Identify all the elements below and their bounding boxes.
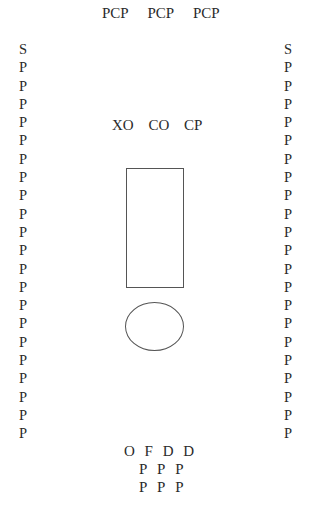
column-label: P (16, 369, 30, 387)
column-label: P (16, 168, 30, 186)
bottom-row-2: P P P (139, 461, 188, 478)
top-label-row: PCP PCP PCP (102, 5, 229, 22)
rectangle-shape (126, 168, 184, 288)
column-label: P (16, 406, 30, 424)
column-label: P (281, 95, 295, 113)
column-label: P (16, 296, 30, 314)
bottom-row-1: O F D D (124, 443, 198, 460)
ellipse-shape (125, 302, 184, 351)
column-label: P (16, 278, 30, 296)
bottom-label: P (157, 461, 167, 477)
column-label: S (281, 40, 295, 58)
column-label: P (281, 333, 295, 351)
column-label: P (281, 168, 295, 186)
bottom-label: D (163, 443, 176, 459)
column-label: P (16, 424, 30, 442)
column-label: P (281, 205, 295, 223)
column-label: P (281, 58, 295, 76)
bottom-label: P (139, 479, 149, 495)
column-label: P (16, 223, 30, 241)
column-label: P (16, 186, 30, 204)
column-label: S (16, 40, 30, 58)
column-label: P (281, 388, 295, 406)
column-label: P (281, 131, 295, 149)
top-label: PCP (193, 5, 220, 21)
top-label: PCP (147, 5, 174, 21)
bottom-label: D (183, 443, 196, 459)
column-label: P (16, 58, 30, 76)
right-column: SPPPPPPPPPPPPPPPPPPPPP (281, 40, 295, 443)
column-label: P (281, 314, 295, 332)
column-label: P (16, 333, 30, 351)
column-label: P (281, 223, 295, 241)
middle-label: XO (112, 117, 134, 133)
column-label: P (16, 77, 30, 95)
column-label: P (281, 186, 295, 204)
bottom-label: P (157, 479, 167, 495)
top-label: PCP (102, 5, 129, 21)
bottom-label: P (175, 461, 185, 477)
column-label: P (16, 95, 30, 113)
column-label: P (281, 296, 295, 314)
middle-label: CP (184, 117, 202, 133)
bottom-label: F (145, 443, 155, 459)
column-label: P (16, 260, 30, 278)
column-label: P (281, 278, 295, 296)
column-label: P (281, 113, 295, 131)
bottom-label: O (124, 443, 137, 459)
column-label: P (16, 131, 30, 149)
column-label: P (281, 369, 295, 387)
column-label: P (16, 205, 30, 223)
column-label: P (281, 351, 295, 369)
column-label: P (16, 351, 30, 369)
column-label: P (281, 77, 295, 95)
middle-label-row: XO CO CP (112, 117, 213, 134)
bottom-row-3: P P P (139, 479, 188, 496)
column-label: P (281, 424, 295, 442)
column-label: P (281, 406, 295, 424)
bottom-label: P (139, 461, 149, 477)
left-column: SPPPPPPPPPPPPPPPPPPPPP (16, 40, 30, 443)
column-label: P (281, 260, 295, 278)
column-label: P (16, 314, 30, 332)
bottom-label: P (175, 479, 185, 495)
middle-label: CO (148, 117, 169, 133)
column-label: P (16, 113, 30, 131)
column-label: P (281, 241, 295, 259)
column-label: P (16, 150, 30, 168)
column-label: P (16, 388, 30, 406)
column-label: P (16, 241, 30, 259)
column-label: P (281, 150, 295, 168)
